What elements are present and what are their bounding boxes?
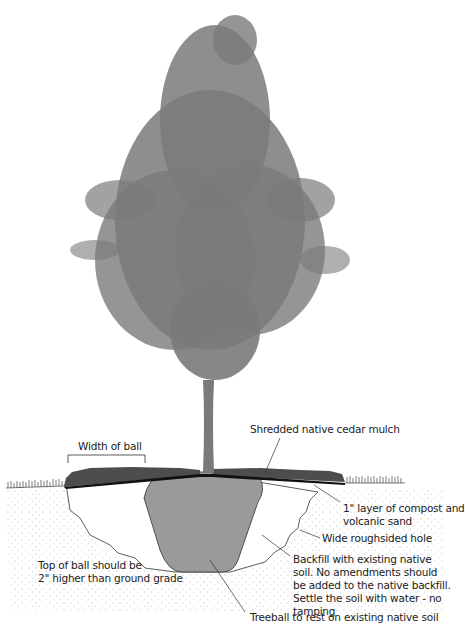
tree-canopy [70, 15, 350, 380]
label-compost-line2: volcanic sand [343, 515, 412, 528]
label-width-of-ball: Width of ball [78, 440, 142, 453]
label-mulch: Shredded native cedar mulch [250, 423, 400, 436]
label-hole: Wide roughsided hole [322, 532, 432, 545]
label-top-of-ball-line2: 2" higher than ground grade [38, 572, 183, 585]
label-backfill: Backfill with existing native soil. No a… [293, 553, 453, 618]
grass-left [6, 479, 64, 488]
label-treeball: Treeball to rest on existing native soil [250, 611, 438, 624]
width-of-ball-bracket [68, 455, 145, 463]
label-compost-line1: 1" layer of compost and [343, 502, 465, 515]
label-top-of-ball-line1: Top of ball should be [38, 559, 142, 572]
tree-trunk [203, 380, 214, 473]
grass-right [345, 476, 405, 483]
